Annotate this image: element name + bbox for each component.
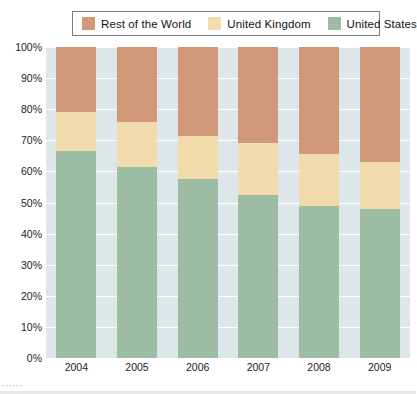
y-axis-tick-label: 80%: [0, 103, 42, 115]
bar-2006[interactable]: [178, 47, 218, 358]
bar-segment[interactable]: [238, 195, 278, 358]
legend-swatch-icon: [328, 17, 341, 30]
y-axis-labels: 0%10%20%30%40%50%60%70%80%90%100%: [0, 47, 42, 358]
x-axis-tick-label: 2006: [168, 361, 228, 373]
legend-swatch-icon: [82, 17, 95, 30]
y-axis-tick-label: 20%: [0, 290, 42, 302]
gridline: [46, 358, 410, 359]
y-axis-tick-label: 70%: [0, 134, 42, 146]
legend-label: United States: [347, 18, 417, 30]
y-axis-tick-label: 50%: [0, 197, 42, 209]
bar-segment[interactable]: [178, 136, 218, 180]
bar-2007[interactable]: [238, 47, 278, 358]
bar-segment[interactable]: [56, 151, 96, 358]
y-axis-tick-label: 60%: [0, 165, 42, 177]
bar-segment[interactable]: [360, 209, 400, 358]
x-axis-tick-label: 2005: [107, 361, 167, 373]
bar-segment[interactable]: [56, 112, 96, 151]
y-axis-tick-label: 90%: [0, 72, 42, 84]
y-axis-tick-label: 30%: [0, 259, 42, 271]
x-axis-tick-label: 2008: [289, 361, 349, 373]
y-axis-tick-label: 100%: [0, 41, 42, 53]
x-axis-tick-label: 2004: [46, 361, 106, 373]
bar-segment[interactable]: [178, 179, 218, 358]
bar-segment[interactable]: [117, 167, 157, 358]
bar-segment[interactable]: [117, 47, 157, 122]
bar-2009[interactable]: [360, 47, 400, 358]
bar-segment[interactable]: [117, 122, 157, 167]
bar-2004[interactable]: [56, 47, 96, 358]
legend-swatch-icon: [208, 17, 221, 30]
y-axis-tick-label: 40%: [0, 228, 42, 240]
legend-item-united-states[interactable]: United States: [328, 17, 417, 30]
bar-segment[interactable]: [299, 154, 339, 205]
legend-label: United Kingdom: [227, 18, 310, 30]
bar-segment[interactable]: [360, 162, 400, 209]
bar-segment[interactable]: [360, 47, 400, 162]
x-axis-tick-label: 2009: [350, 361, 410, 373]
bar-series-layer: [46, 47, 410, 358]
x-axis-labels: 200420052006200720082009: [46, 361, 410, 381]
y-axis-tick-label: 10%: [0, 321, 42, 333]
bar-segment[interactable]: [178, 47, 218, 136]
bar-segment[interactable]: [56, 47, 96, 112]
bar-segment[interactable]: [238, 47, 278, 143]
y-axis-tick-label: 0%: [0, 352, 42, 364]
bar-segment[interactable]: [299, 206, 339, 358]
plot-area: [46, 47, 410, 358]
legend-item-united-kingdom[interactable]: United Kingdom: [208, 17, 310, 30]
bar-2005[interactable]: [117, 47, 157, 358]
legend-label: Rest of the World: [101, 18, 191, 30]
bar-2008[interactable]: [299, 47, 339, 358]
scan-artifact-marks: ......: [2, 378, 23, 388]
bar-segment[interactable]: [238, 143, 278, 194]
bar-segment[interactable]: [299, 47, 339, 154]
chart-legend: Rest of the World United Kingdom United …: [72, 11, 380, 36]
x-axis-tick-label: 2007: [228, 361, 288, 373]
legend-item-rest-of-the-world[interactable]: Rest of the World: [82, 17, 191, 30]
